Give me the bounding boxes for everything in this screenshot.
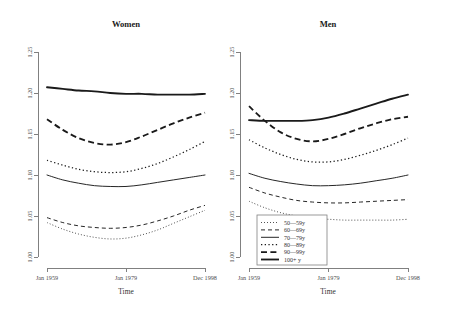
y-tick-label: 1.25 [26, 47, 33, 58]
y-tick-label: 1.25 [228, 47, 235, 58]
y-tick-label: 1.20 [26, 88, 33, 99]
x-tick-label: Dec 1998 [396, 274, 420, 281]
y-tick-label: 1.20 [228, 88, 235, 99]
legend-label-60-69y: 60—69y [284, 227, 305, 233]
series-line-70-79y [47, 175, 205, 187]
series-line-100-y [249, 95, 408, 121]
series-line-90-99y [47, 113, 205, 145]
series-line-60-69y [249, 187, 408, 203]
y-tick-label: 1.10 [228, 170, 235, 181]
panel-title-women: Women [112, 19, 140, 29]
panel-women: Women1.001.051.101.151.201.25Jan 1959Jan… [26, 19, 217, 296]
series-line-70-79y [249, 173, 408, 185]
y-tick-label: 1.15 [26, 129, 33, 140]
y-tick-label: 1.00 [228, 252, 235, 263]
x-tick-label: Jan 1979 [115, 274, 137, 281]
series-line-60-69y [47, 205, 205, 228]
y-tick-label: 1.05 [228, 211, 235, 222]
series-line-100-y [47, 87, 205, 94]
series-line-90-99y [249, 106, 408, 141]
x-axis-title: Time [118, 287, 134, 296]
y-tick-label: 1.00 [26, 252, 33, 263]
x-tick-label: Dec 1998 [193, 274, 217, 281]
y-tick-label: 1.15 [228, 129, 235, 140]
series-line-80-89y [47, 141, 205, 172]
legend-label-80-89y: 80—89y [284, 242, 305, 248]
legend: 50—59y60—69y70—79y80—89y90—99y100+ y [257, 215, 327, 265]
x-tick-label: Jan 1959 [36, 274, 58, 281]
x-axis-title: Time [320, 287, 336, 296]
figure-container: Women1.001.051.101.151.201.25Jan 1959Jan… [0, 0, 450, 323]
y-tick-label: 1.10 [26, 170, 33, 181]
y-tick-label: 1.05 [26, 211, 33, 222]
legend-label-50-59y: 50—59y [284, 220, 305, 226]
legend-label-70-79y: 70—79y [284, 235, 305, 241]
x-tick-label: Jan 1979 [317, 274, 339, 281]
series-line-80-89y [249, 138, 408, 162]
legend-label-90-99y: 90—99y [284, 249, 305, 255]
two-panel-line-chart: Women1.001.051.101.151.201.25Jan 1959Jan… [0, 0, 450, 323]
panel-title-men: Men [320, 19, 337, 29]
legend-label-100-y: 100+ y [284, 257, 301, 263]
x-tick-label: Jan 1959 [238, 274, 260, 281]
